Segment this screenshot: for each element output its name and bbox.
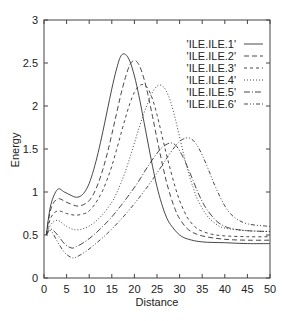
y-tick-label: 3	[32, 14, 38, 26]
legend-entry: 'ILE.ILE.5'	[187, 86, 263, 98]
legend-label: 'ILE.ILE.5'	[187, 86, 236, 98]
x-axis-label: Distance	[136, 296, 179, 308]
legend-entry: 'ILE.ILE.2'	[187, 50, 263, 62]
series-line-4	[46, 85, 270, 235]
legend-label: 'ILE.ILE.3'	[187, 62, 236, 74]
x-tick-label: 30	[173, 283, 185, 295]
series-line-5	[46, 143, 270, 248]
y-tick-label: 2	[32, 100, 38, 112]
legend-label: 'ILE.ILE.4'	[187, 74, 236, 86]
chart-canvas: 05101520253035404550 00.511.522.53 Dista…	[0, 0, 286, 321]
x-tick-label: 35	[196, 283, 208, 295]
x-tick-label: 0	[41, 283, 47, 295]
x-tick-label: 5	[64, 283, 70, 295]
legend-entry: 'ILE.ILE.1'	[187, 38, 263, 50]
energy-distance-chart: 05101520253035404550 00.511.522.53 Dista…	[0, 0, 286, 321]
x-tick-labels: 05101520253035404550	[41, 283, 276, 295]
series-line-2	[46, 60, 270, 240]
y-tick-label: 0.5	[23, 229, 38, 241]
x-tick-label: 15	[106, 283, 118, 295]
axis-ticks	[44, 20, 270, 278]
x-tick-label: 25	[151, 283, 163, 295]
x-tick-label: 20	[128, 283, 140, 295]
x-tick-label: 40	[219, 283, 231, 295]
x-tick-label: 50	[264, 283, 276, 295]
y-tick-label: 2.5	[23, 57, 38, 69]
plot-frame	[44, 20, 270, 278]
legend-label: 'ILE.ILE.2'	[187, 50, 236, 62]
y-tick-label: 1	[32, 186, 38, 198]
series-line-3	[46, 84, 270, 236]
y-tick-labels: 00.511.522.53	[23, 14, 38, 284]
legend-entry: 'ILE.ILE.3'	[187, 62, 263, 74]
series-layer	[46, 54, 270, 258]
legend-entry: 'ILE.ILE.6'	[187, 98, 263, 110]
x-tick-label: 45	[241, 283, 253, 295]
y-tick-label: 0	[32, 272, 38, 284]
legend-entry: 'ILE.ILE.4'	[187, 74, 263, 86]
legend: 'ILE.ILE.1''ILE.ILE.2''ILE.ILE.3''ILE.IL…	[187, 38, 263, 110]
x-tick-label: 10	[83, 283, 95, 295]
y-tick-label: 1.5	[23, 143, 38, 155]
y-axis-label: Energy	[9, 132, 21, 167]
legend-label: 'ILE.ILE.1'	[187, 38, 236, 50]
legend-label: 'ILE.ILE.6'	[187, 98, 236, 110]
